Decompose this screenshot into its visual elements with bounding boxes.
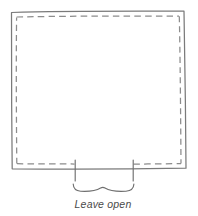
diagram-background [0,0,198,216]
sewing-diagram-container: Leave open [0,0,198,216]
sewing-diagram-svg: Leave open [0,0,198,216]
leave-open-caption: Leave open [75,198,132,210]
